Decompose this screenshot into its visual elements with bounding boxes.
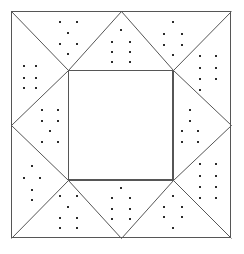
- stipple-dot: [76, 21, 78, 23]
- stipple-dot: [197, 141, 199, 143]
- stipple-dot: [181, 141, 183, 143]
- stipple-dot: [199, 89, 201, 91]
- stipple-dot: [23, 77, 25, 79]
- stipple-dot: [189, 109, 191, 111]
- stipple-dot: [215, 175, 217, 177]
- stipple-dot: [199, 186, 201, 188]
- stipple-dot: [76, 227, 78, 229]
- stipple-dot: [23, 65, 25, 67]
- stipple-dot: [163, 44, 165, 46]
- stipple-dot: [111, 61, 113, 63]
- stipple-dot: [76, 195, 78, 197]
- stipple-dot: [41, 120, 43, 122]
- stipple-dot: [23, 177, 25, 179]
- stipple-dot: [35, 77, 37, 79]
- stipple-dot: [199, 55, 201, 57]
- stipple-dot: [215, 197, 217, 199]
- stipple-dot: [67, 53, 69, 55]
- stipple-dot: [57, 120, 59, 122]
- stipple-dot: [181, 44, 183, 46]
- stipple-dot: [59, 43, 61, 45]
- stipple-dot: [129, 61, 131, 63]
- stipple-dot: [59, 195, 61, 197]
- stipple-dot: [111, 197, 113, 199]
- stipple-dot: [111, 51, 113, 53]
- stipple-dot: [120, 187, 122, 189]
- stipple-dot: [181, 33, 183, 35]
- stipple-dot: [31, 199, 33, 201]
- stipple-dot: [199, 67, 201, 69]
- stipple-dot: [35, 65, 37, 67]
- stipple-dot: [163, 206, 165, 208]
- stipple-dot: [120, 29, 122, 31]
- stipple-dot: [41, 109, 43, 111]
- stipple-dot: [215, 55, 217, 57]
- stipple-dot: [129, 41, 131, 43]
- stipple-dot: [57, 141, 59, 143]
- stipple-dot: [49, 130, 51, 132]
- stipple-dot: [111, 41, 113, 43]
- stipple-dot: [35, 87, 37, 89]
- stipple-dot: [172, 227, 174, 229]
- stipple-dot: [41, 141, 43, 143]
- stipple-dot: [57, 109, 59, 111]
- stipple-dot: [23, 87, 25, 89]
- stipple-dot: [129, 197, 131, 199]
- stipple-dot: [215, 163, 217, 165]
- stipple-dot: [129, 51, 131, 53]
- quilt-block-figure: [0, 0, 244, 254]
- stipple-dot: [163, 216, 165, 218]
- stipple-dot: [172, 54, 174, 56]
- stipple-dot: [111, 218, 113, 220]
- stipple-dot: [31, 189, 33, 191]
- stipple-dot: [181, 216, 183, 218]
- stipple-dot: [31, 165, 33, 167]
- stipple-dot: [199, 78, 201, 80]
- stipple-dot: [181, 206, 183, 208]
- stipple-dot: [172, 21, 174, 23]
- stipple-dot: [39, 177, 41, 179]
- stipple-dot: [111, 208, 113, 210]
- stipple-dot: [129, 208, 131, 210]
- stipple-dot: [197, 130, 199, 132]
- stipple-dot: [67, 206, 69, 208]
- stipple-dot: [199, 175, 201, 177]
- stipple-dot: [163, 33, 165, 35]
- stipple-dot: [215, 67, 217, 69]
- stipple-dot: [59, 217, 61, 219]
- stipple-dot: [181, 130, 183, 132]
- stipple-dot: [129, 218, 131, 220]
- stipple-dot: [172, 195, 174, 197]
- stipple-dot: [59, 227, 61, 229]
- stipple-dot: [76, 217, 78, 219]
- stipple-dot: [76, 43, 78, 45]
- stipple-dot: [199, 197, 201, 199]
- quilt-block-drawing: [0, 0, 244, 254]
- stipple-dot: [59, 21, 61, 23]
- stipple-dot: [199, 163, 201, 165]
- stipple-dot: [215, 78, 217, 80]
- stipple-dot: [189, 120, 191, 122]
- stipple-dot: [67, 32, 69, 34]
- stipple-dot: [215, 186, 217, 188]
